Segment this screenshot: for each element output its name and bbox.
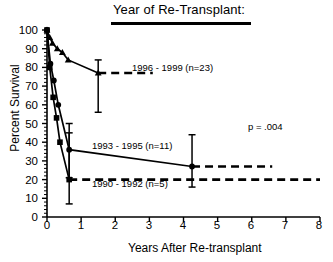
series-line <box>47 30 98 73</box>
data-point-marker <box>189 164 195 170</box>
axes-group <box>42 28 320 222</box>
data-point-marker <box>66 177 72 183</box>
data-point-marker <box>49 40 56 46</box>
data-point-marker <box>44 27 50 33</box>
data-point-marker <box>57 139 63 145</box>
survival-chart: Year of Re-Transplant: Percent Survival … <box>0 0 333 262</box>
data-point-marker <box>47 65 53 71</box>
data-point-marker <box>55 102 61 108</box>
data-point-marker <box>50 95 56 101</box>
plot-area <box>0 0 333 262</box>
data-point-marker <box>54 115 60 121</box>
series-layer <box>44 27 320 204</box>
series-2 <box>44 27 272 187</box>
series-1 <box>44 27 153 113</box>
series-3 <box>44 27 320 204</box>
